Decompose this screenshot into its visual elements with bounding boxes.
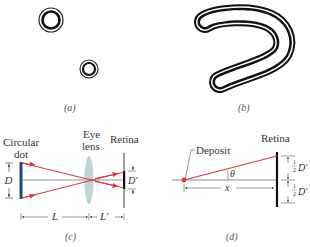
caption-c: (c) <box>65 231 77 243</box>
label-D: D <box>4 174 13 186</box>
deposit-leader <box>185 150 195 180</box>
panel-a: (a) <box>39 8 98 114</box>
label-retina: Retina <box>110 133 139 145</box>
label-dot: dot <box>14 148 28 160</box>
label-half-Dprime-bottom: 1 2 D' <box>292 183 308 197</box>
panel-c: Circular dot Eye lens Retina D D' <box>3 128 139 243</box>
label-half-Dprime-top: 1 2 D' <box>292 159 308 173</box>
label-L: L <box>51 210 58 222</box>
label-theta: θ <box>230 168 235 179</box>
label-Dprime: D' <box>127 175 138 186</box>
retina-image <box>123 171 125 189</box>
label-lens: lens <box>82 140 100 152</box>
floater-ring-small <box>80 60 98 78</box>
panel-b: (b) <box>205 15 284 114</box>
svg-text:1: 1 <box>293 183 296 189</box>
floater-ring-large <box>39 8 63 32</box>
circular-dot-bar <box>20 162 23 199</box>
deposit-dot <box>182 178 187 183</box>
label-eye: Eye <box>83 128 100 140</box>
svg-text:1: 1 <box>293 159 296 165</box>
label-x: x <box>224 182 230 193</box>
label-deposit: Deposit <box>196 144 230 156</box>
label-Lprime: L' <box>99 210 109 222</box>
caption-a: (a) <box>64 102 76 114</box>
svg-text:D': D' <box>297 186 308 197</box>
caption-b: (b) <box>238 102 250 114</box>
panel-d: Retina Deposit θ x 1 2 D' 1 <box>172 132 308 243</box>
svg-text:2: 2 <box>293 167 296 173</box>
caption-d: (d) <box>226 231 238 243</box>
label-circular: Circular <box>3 136 39 148</box>
svg-text:2: 2 <box>293 191 296 197</box>
label-retina-d: Retina <box>261 132 290 144</box>
figure-canvas: (a) (b) Circular dot Eye lens Retina D <box>0 0 310 247</box>
svg-text:D': D' <box>297 162 308 173</box>
